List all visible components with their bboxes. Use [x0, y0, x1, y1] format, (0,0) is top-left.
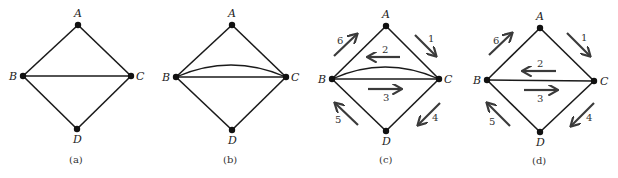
panel-b: A B C D (b) — [161, 7, 300, 165]
node-b — [20, 73, 26, 79]
node-label-b: B — [317, 73, 326, 86]
edge-a-b — [176, 25, 232, 77]
arrow-label-2: 2 — [382, 44, 388, 55]
node-label-d: D — [227, 134, 237, 147]
node-label-a: A — [227, 7, 236, 20]
node-label-a: A — [381, 8, 390, 21]
node-label-b: B — [161, 71, 170, 84]
node-d — [537, 129, 543, 135]
edge-c-d — [540, 81, 594, 132]
arrow-label-5: 5 — [335, 114, 341, 125]
edge-c-d — [386, 79, 439, 131]
panel-d: A B C D 1 2 3 4 5 6 (d) — [472, 10, 609, 166]
panel-a: A B C D (a) — [8, 7, 145, 165]
edge-b-c — [487, 80, 594, 81]
node-d — [74, 126, 80, 132]
arrow-label-2: 2 — [537, 58, 543, 69]
node-c — [128, 73, 134, 79]
panel-caption-b: (b) — [223, 154, 237, 165]
edge-a-b — [23, 25, 78, 76]
node-a — [229, 22, 235, 28]
node-c — [283, 74, 289, 80]
panel-c: A B C D 1 2 3 4 5 6 (c) — [317, 8, 453, 165]
node-c — [436, 76, 442, 82]
arrow-label-4: 4 — [432, 112, 438, 123]
edge-a-c — [78, 25, 131, 76]
node-label-d: D — [381, 135, 391, 148]
node-label-b: B — [472, 74, 481, 87]
edge-a-c — [232, 25, 286, 77]
edge-a-b — [332, 26, 386, 79]
edge-b-c-curved — [176, 65, 286, 77]
node-b — [173, 74, 179, 80]
panel-caption-a: (a) — [69, 154, 83, 165]
node-label-d: D — [72, 133, 82, 146]
edge-b-d — [176, 77, 232, 130]
node-label-c: C — [291, 71, 300, 84]
arrow-label-4: 4 — [586, 112, 592, 123]
arrow-label-3: 3 — [383, 92, 389, 103]
panel-caption-d: (d) — [532, 155, 546, 166]
arrow-label-1: 1 — [581, 32, 587, 43]
node-label-a: A — [535, 10, 544, 23]
node-b — [484, 77, 490, 83]
edge-b-d — [23, 76, 77, 129]
node-c — [591, 78, 597, 84]
node-label-c: C — [444, 73, 453, 86]
node-a — [383, 23, 389, 29]
node-a — [75, 22, 81, 28]
node-a — [537, 25, 543, 31]
arrow-label-5: 5 — [489, 116, 495, 127]
arrow-label-6: 6 — [493, 35, 499, 46]
edges — [23, 25, 131, 129]
node-d — [229, 127, 235, 133]
edges — [176, 25, 286, 130]
node-label-c: C — [600, 75, 609, 88]
node-d — [383, 128, 389, 134]
panel-caption-c: (c) — [379, 154, 393, 165]
edge-b-c-curved — [332, 67, 439, 79]
graph-figure: A B C D (a) A B C D (b) — [0, 0, 618, 178]
arrow-label-3: 3 — [537, 93, 543, 104]
arrow-label-6: 6 — [337, 35, 343, 46]
node-label-a: A — [73, 7, 82, 20]
node-b — [329, 76, 335, 82]
node-label-c: C — [136, 70, 145, 83]
arrow-label-1: 1 — [428, 33, 434, 44]
node-label-b: B — [8, 70, 17, 83]
node-label-d: D — [535, 136, 545, 149]
edge-c-d — [232, 77, 286, 130]
edge-c-d — [77, 76, 131, 129]
